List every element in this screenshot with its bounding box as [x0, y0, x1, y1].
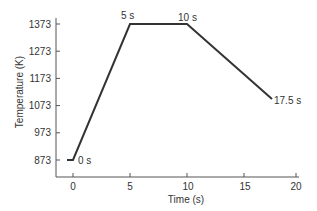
y-tick-label: 1073: [29, 100, 52, 111]
x-tick-label: 0: [70, 181, 76, 192]
y-tick-label: 1273: [29, 46, 52, 57]
y-tick-label: 1373: [29, 19, 52, 30]
y-tick-label: 873: [34, 155, 51, 166]
x-tick-label: 5: [127, 181, 133, 192]
y-tick-label: 973: [34, 127, 51, 138]
y-axis-title: Temperature (K): [14, 56, 25, 128]
x-ticks: [73, 173, 296, 177]
x-tick-label: 10: [182, 181, 194, 192]
y-tick-labels: 873 973 1073 1173 1273 1373: [29, 19, 52, 166]
temperature-line: [67, 24, 272, 160]
x-axis-title: Time (s): [168, 194, 204, 205]
annotation-5s: 5 s: [121, 10, 134, 21]
annotation-17-5s: 17.5 s: [274, 95, 301, 106]
annotation-0s: 0 s: [78, 155, 91, 166]
annotation-10s: 10 s: [178, 12, 197, 23]
y-ticks: [56, 24, 60, 160]
y-tick-label: 1173: [29, 73, 51, 84]
x-tick-label: 20: [290, 181, 302, 192]
x-tick-labels: 0 5 10 15 20: [70, 181, 302, 192]
x-tick-label: 15: [239, 181, 251, 192]
temperature-time-chart: 873 973 1073 1173 1273 1373 0 5 10 15 20…: [0, 0, 317, 211]
